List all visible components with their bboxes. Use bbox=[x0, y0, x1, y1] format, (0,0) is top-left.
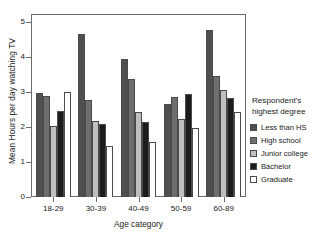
legend-swatch bbox=[250, 124, 257, 131]
legend-label: Bachelor bbox=[261, 162, 291, 171]
y-tick-label: 4 bbox=[13, 52, 25, 62]
bar bbox=[213, 76, 220, 197]
bar-chart: Mean Hours per day watching TV 012345 18… bbox=[0, 0, 320, 241]
bar bbox=[64, 92, 71, 197]
legend-label: Junior college bbox=[261, 149, 308, 158]
legend-swatch bbox=[250, 163, 257, 170]
bar bbox=[92, 121, 99, 197]
bars-container bbox=[32, 15, 245, 197]
legend-swatch bbox=[250, 176, 257, 183]
legend-title: Respondent'shighest degree bbox=[252, 96, 320, 117]
bar bbox=[192, 128, 199, 197]
bar bbox=[185, 94, 192, 197]
x-axis-title: Age category bbox=[31, 219, 246, 229]
bar bbox=[85, 100, 92, 197]
legend-item[interactable]: Junior college bbox=[250, 147, 320, 160]
bar bbox=[206, 30, 213, 197]
bar bbox=[43, 96, 50, 198]
bar bbox=[121, 59, 128, 197]
x-tick-label: 30-39 bbox=[76, 204, 116, 213]
bar-group bbox=[36, 15, 71, 197]
bar-group bbox=[164, 15, 199, 197]
legend-title-line-1: Respondent's bbox=[252, 96, 320, 107]
legend-item[interactable]: Less than HS bbox=[250, 121, 320, 134]
x-tick-label: 50-59 bbox=[161, 204, 201, 213]
y-tick-label: 5 bbox=[13, 17, 25, 27]
x-tick-label: 60-89 bbox=[204, 204, 244, 213]
y-tick-label: 1 bbox=[13, 157, 25, 167]
legend-title-line-2: highest degree bbox=[252, 107, 320, 118]
x-tick-mark bbox=[224, 197, 225, 202]
bar bbox=[36, 93, 43, 197]
legend-item[interactable]: Graduate bbox=[250, 173, 320, 186]
bar bbox=[149, 142, 156, 197]
legend-entries: Less than HSHigh schoolJunior collegeBac… bbox=[250, 121, 320, 186]
legend-swatch bbox=[250, 137, 257, 144]
y-tick-label: 3 bbox=[13, 87, 25, 97]
bar bbox=[227, 98, 234, 197]
y-tick-label: 2 bbox=[13, 122, 25, 132]
bar bbox=[106, 146, 113, 197]
legend-label: Graduate bbox=[261, 175, 293, 184]
bar bbox=[50, 126, 57, 197]
bar bbox=[57, 111, 64, 197]
legend-label: High school bbox=[261, 136, 301, 145]
bar bbox=[99, 124, 106, 197]
bar-group bbox=[206, 15, 241, 197]
x-tick-mark bbox=[139, 197, 140, 202]
bar bbox=[220, 90, 227, 197]
y-axis-ticks: 012345 bbox=[0, 0, 31, 241]
bar bbox=[171, 97, 178, 197]
x-tick-label: 40-49 bbox=[119, 204, 159, 213]
x-tick-label: 18-29 bbox=[33, 204, 73, 213]
bar bbox=[164, 104, 171, 197]
bar-group bbox=[78, 15, 113, 197]
bar bbox=[142, 122, 149, 197]
bar bbox=[234, 112, 241, 197]
y-tick-label: 0 bbox=[13, 192, 25, 202]
bar bbox=[178, 119, 185, 197]
legend-item[interactable]: High school bbox=[250, 134, 320, 147]
bar bbox=[135, 112, 142, 197]
x-tick-mark bbox=[53, 197, 54, 202]
legend-label: Less than HS bbox=[261, 123, 307, 132]
bar-group bbox=[121, 15, 156, 197]
x-tick-mark bbox=[181, 197, 182, 202]
legend-item[interactable]: Bachelor bbox=[250, 160, 320, 173]
bar bbox=[128, 79, 135, 197]
legend-swatch bbox=[250, 150, 257, 157]
legend: Respondent'shighest degree Less than HSH… bbox=[250, 96, 320, 186]
x-tick-mark bbox=[96, 197, 97, 202]
bar bbox=[78, 34, 85, 197]
